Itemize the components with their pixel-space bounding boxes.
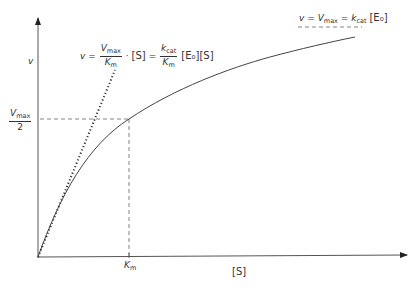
x-axis-label: [S] xyxy=(232,266,246,277)
slope-eq1: = xyxy=(88,51,96,61)
slope-s1: [S] xyxy=(132,50,146,61)
slope-fraction-2: kcat Km xyxy=(160,43,177,70)
half-vmax-label: Vmax 2 xyxy=(8,108,32,132)
slope-dot: · xyxy=(126,51,129,61)
sat-kcat-sub: cat xyxy=(356,17,366,25)
initial-slope-line xyxy=(38,70,115,257)
f2-num-sub: cat xyxy=(166,47,176,55)
sat-eq1: = xyxy=(307,13,315,23)
x-axis xyxy=(38,255,407,257)
saturation-equation: v = Vmax = kcat [E₀] xyxy=(299,12,388,25)
rate-curve xyxy=(38,37,355,257)
slope-lhs: v xyxy=(80,51,85,61)
f1-den-sub: m xyxy=(111,61,117,69)
slope-e0: [E₀] xyxy=(181,50,199,61)
f2-den-sub: m xyxy=(168,61,174,69)
slope-fraction-1: Vmax Km xyxy=(100,43,122,70)
f1-num-sub: max xyxy=(107,47,121,55)
sat-eq2: = xyxy=(341,13,349,23)
km-sub: m xyxy=(130,264,136,272)
km-label: Km xyxy=(124,260,136,272)
initial-slope-equation: v = Vmax Km · [S] = kcat Km [E₀][S] xyxy=(80,43,214,70)
half-vmax-num-sub: max xyxy=(16,112,30,120)
sat-vmax-sub: max xyxy=(324,17,338,25)
slope-s2: [S] xyxy=(199,50,213,61)
slope-eq2: = xyxy=(149,51,157,61)
sat-lhs: v xyxy=(299,13,304,23)
sat-e0: [E₀] xyxy=(369,12,387,23)
y-axis-label: v xyxy=(28,56,33,66)
half-vmax-den: 2 xyxy=(17,122,23,132)
